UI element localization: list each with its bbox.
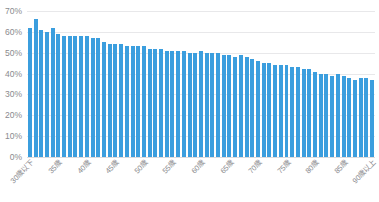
bar[interactable] [136,46,140,157]
bar-slot [369,11,375,157]
x-axis-tick-label: 30歳以下 [9,159,35,185]
x-axis-tick-label: 35歳 [48,159,64,175]
bar[interactable] [125,46,129,157]
bar[interactable] [290,67,294,157]
bar[interactable] [85,36,89,157]
bar[interactable] [302,69,306,157]
chart-title-strip [0,0,379,7]
bar[interactable] [330,76,334,157]
bar[interactable] [131,46,135,157]
bar[interactable] [182,51,186,157]
bar[interactable] [142,46,146,157]
x-axis-tick-label: 70歳 [247,159,263,175]
x-axis-tick-label: 85歳 [333,159,349,175]
y-axis-tick-label: 40% [0,70,22,79]
bar[interactable] [119,44,123,157]
x-axis-tick-label: 55歳 [162,159,178,175]
bar[interactable] [153,49,157,157]
x-axis-tick-label: 50歳 [133,159,149,175]
bar-series [27,11,375,157]
bar[interactable] [262,63,266,157]
bar[interactable] [336,74,340,157]
bar[interactable] [273,65,277,157]
plot-area [27,11,375,157]
bar[interactable] [250,59,254,157]
bar[interactable] [73,36,77,157]
x-axis-tick-label: 45歳 [105,159,121,175]
bar-chart: 70%60%50%40%30%20%10%0% 30歳以下35歳40歳45歳50… [0,0,379,202]
bar[interactable] [148,49,152,157]
bar[interactable] [353,80,357,157]
y-axis-tick-label: 70% [0,7,22,16]
bar[interactable] [96,38,100,157]
bar[interactable] [51,28,55,157]
x-axis-tick-label: 60歳 [190,159,206,175]
bar[interactable] [68,36,72,157]
bar[interactable] [267,63,271,157]
bar[interactable] [170,51,174,157]
bar[interactable] [227,55,231,157]
bar[interactable] [165,51,169,157]
bar[interactable] [359,78,363,157]
bar[interactable] [245,57,249,157]
x-axis-tick-label: 75歳 [276,159,292,175]
bar[interactable] [193,53,197,157]
y-axis-tick-label: 0% [0,153,22,162]
bar[interactable] [279,65,283,157]
bar[interactable] [176,51,180,157]
x-axis-tick-label: 65歳 [219,159,235,175]
x-axis-tick-label: 80歳 [304,159,320,175]
bar[interactable] [210,53,214,157]
bar[interactable] [256,61,260,157]
bar[interactable] [28,28,32,157]
y-axis-tick-label: 10% [0,132,22,141]
bar[interactable] [307,69,311,157]
bar[interactable] [216,53,220,157]
bar[interactable] [313,72,317,158]
bar[interactable] [324,74,328,157]
bar[interactable] [159,49,163,157]
bar[interactable] [370,80,374,157]
y-axis-tick-label: 30% [0,90,22,99]
bar[interactable] [319,74,323,157]
y-axis-tick-label: 50% [0,49,22,58]
bar[interactable] [364,78,368,157]
bar[interactable] [239,55,243,157]
bar[interactable] [34,19,38,157]
y-axis-tick-label: 20% [0,111,22,120]
x-axis-tick-label: 40歳 [76,159,92,175]
bar[interactable] [45,32,49,157]
x-axis: 30歳以下35歳40歳45歳50歳55歳60歳65歳70歳75歳80歳85歳90… [27,157,375,202]
y-axis-tick-label: 60% [0,28,22,37]
bar[interactable] [285,65,289,157]
bar[interactable] [102,42,106,157]
bar[interactable] [188,53,192,157]
bar[interactable] [233,57,237,157]
bar[interactable] [113,44,117,157]
bar[interactable] [56,34,60,157]
bar[interactable] [342,76,346,157]
bar[interactable] [91,38,95,157]
bar[interactable] [199,51,203,157]
x-axis-tick-label: 90歳以上 [351,159,377,185]
bar[interactable] [108,44,112,157]
bar[interactable] [222,55,226,157]
bar[interactable] [205,53,209,157]
bar[interactable] [62,36,66,157]
bar[interactable] [79,36,83,157]
bar[interactable] [347,78,351,157]
bar[interactable] [39,30,43,157]
bar[interactable] [296,67,300,157]
